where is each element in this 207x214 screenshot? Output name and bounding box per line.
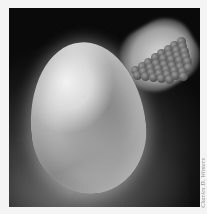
molecular-cluster [127,26,193,84]
photo-credit: Charles D. Winters [200,158,206,208]
atom-sphere [184,63,193,72]
atom-sphere [179,72,188,81]
photo-frame [9,8,200,207]
